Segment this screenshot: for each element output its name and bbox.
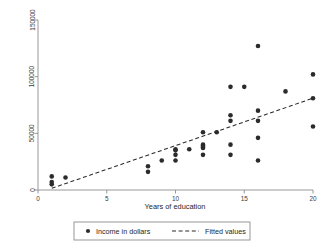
x-axis-title: Years of education [145,202,206,211]
data-point [228,142,233,147]
x-tick-label: 20 [309,195,317,202]
data-point [311,72,316,77]
data-point [256,136,261,141]
data-point [146,164,151,169]
data-point [201,153,206,158]
data-point [228,113,233,118]
legend-marker-income-icon [86,229,90,233]
data-point [201,146,206,151]
data-point [63,175,68,180]
fitted-values-line [52,98,313,188]
legend: Income in dollars Fitted values [74,222,250,240]
data-point [256,44,261,49]
data-point [311,96,316,101]
data-point [173,153,178,158]
data-point [214,130,219,135]
data-points-layer [49,44,315,187]
legend-label-fitted: Fitted values [205,227,246,236]
data-point [256,158,261,163]
data-point [173,158,178,163]
scatter-plot-figure: 050000100000150000 05101520 Years of edu… [0,0,327,250]
data-point [242,85,247,90]
data-point [256,108,261,113]
x-tick-label: 0 [36,195,40,202]
data-point [256,119,261,124]
data-point [228,119,233,124]
y-tick-label: 50000 [29,124,36,142]
x-tick-label: 5 [105,195,109,202]
y-axis-ticks: 050000100000150000 [29,9,39,192]
data-point [49,182,54,187]
data-point [187,147,192,152]
legend-label-income: Income in dollars [96,227,151,236]
y-tick-label: 100000 [29,66,36,88]
data-point [146,170,151,175]
x-tick-label: 10 [172,195,180,202]
data-point [173,148,178,153]
data-point [228,85,233,90]
data-point [201,130,206,135]
data-point [311,124,316,129]
y-tick-label: 150000 [29,9,36,31]
x-tick-label: 15 [241,195,249,202]
data-point [49,174,54,179]
y-axis: 050000100000150000 [29,9,39,192]
data-point [228,153,233,158]
plot-svg: 050000100000150000 05101520 Years of edu… [0,0,327,250]
data-point [283,89,288,94]
data-point [159,158,164,163]
x-axis-ticks: 05101520 [36,190,317,202]
fitted-line-segment [52,98,313,188]
y-tick-label: 0 [29,188,36,192]
x-axis: 05101520 Years of education [36,190,317,211]
